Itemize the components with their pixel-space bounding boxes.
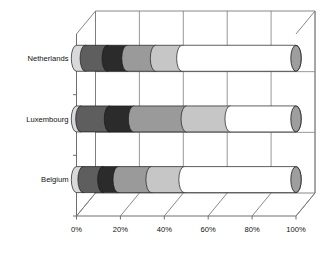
floor-depth-line-4 — [252, 193, 271, 216]
bars-group — [71, 45, 301, 192]
bar-segment-luxembourg-6 — [225, 106, 301, 132]
floor-depth-line-3 — [208, 193, 227, 216]
x-axis-tick-labels: 0%20%40%60%80%100% — [71, 225, 306, 234]
stacked-cylinder-chart: 0%20%40%60%80%100% NetherlandsLuxembourg… — [0, 0, 323, 254]
chart-container: 0%20%40%60%80%100% NetherlandsLuxembourg… — [0, 0, 323, 254]
bar-segment-belgium-6 — [179, 167, 301, 193]
x-axis-label-60pct: 60% — [201, 225, 216, 234]
bar-netherlands — [71, 45, 301, 71]
gridlines-group — [96, 11, 316, 193]
bar-segment-netherlands-6 — [177, 45, 302, 71]
y-axis-label-luxembourg: Luxembourg — [26, 115, 68, 124]
x-axis-label-100pct: 100% — [286, 225, 306, 234]
bar-belgium — [71, 167, 301, 193]
bar-end-cap-belgium — [291, 167, 301, 193]
bar-end-cap-netherlands — [291, 45, 301, 71]
x-axis-label-0pct: 0% — [71, 225, 82, 234]
x-axis-label-20pct: 20% — [113, 225, 128, 234]
bar-end-cap-luxembourg — [291, 106, 301, 132]
x-axis-label-80pct: 80% — [244, 225, 259, 234]
left-wall-top-edge — [77, 11, 96, 34]
floor-depth-line-2 — [164, 193, 183, 216]
floor-depth-line-0 — [77, 193, 96, 216]
back-wall — [96, 11, 316, 193]
y-axis-label-netherlands: Netherlands — [28, 54, 69, 63]
floor-depth-line-1 — [120, 193, 139, 216]
x-axis-label-40pct: 40% — [157, 225, 172, 234]
y-axis-category-labels: NetherlandsLuxembourgBelgium — [26, 54, 68, 184]
right-wall-top-edge — [296, 11, 315, 34]
bar-luxembourg — [71, 106, 301, 132]
floor-depth-line-5 — [296, 193, 315, 216]
y-axis-label-belgium: Belgium — [41, 175, 68, 184]
